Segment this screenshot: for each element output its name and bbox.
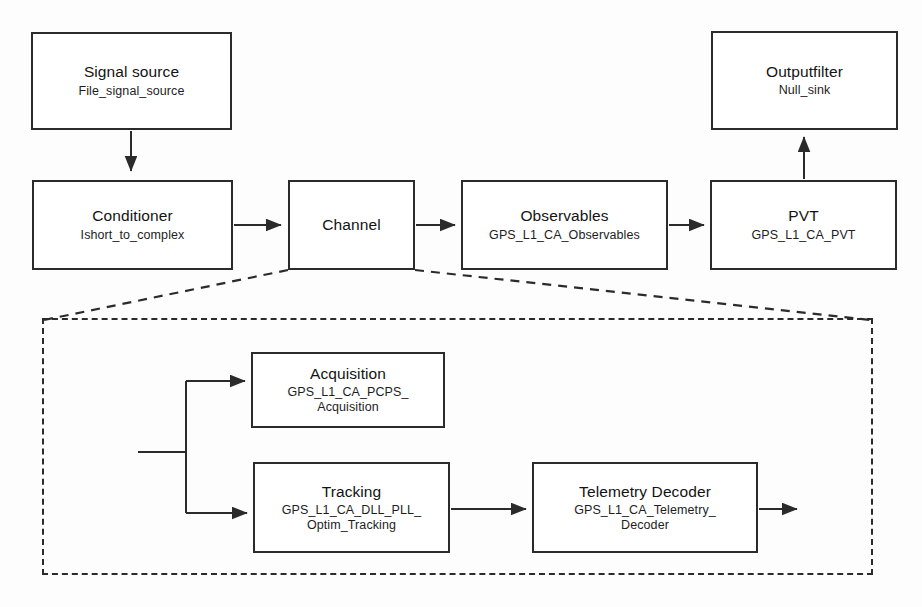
- block-acquisition-title: Acquisition: [310, 365, 386, 383]
- block-acquisition-subtitle-line1: GPS_L1_CA_PCPS_: [287, 385, 408, 399]
- block-tracking-subtitle-line2: Optim_Tracking: [282, 518, 421, 533]
- block-signal-source-subtitle: File_signal_source: [78, 84, 184, 99]
- block-signal-source[interactable]: Signal source File_signal_source: [31, 32, 232, 130]
- block-telemetry-decoder-subtitle: GPS_L1_CA_Telemetry_ Decoder: [574, 503, 716, 533]
- block-output-filter[interactable]: Outputfilter Null_sink: [711, 31, 898, 130]
- block-output-filter-subtitle: Null_sink: [779, 83, 831, 98]
- block-telemetry-decoder[interactable]: Telemetry Decoder GPS_L1_CA_Telemetry_ D…: [532, 462, 758, 553]
- block-conditioner-subtitle: Ishort_to_complex: [81, 228, 185, 243]
- expansion-guide-left: [44, 270, 288, 320]
- block-channel[interactable]: Channel: [288, 180, 415, 270]
- block-telemetry-decoder-subtitle-line1: GPS_L1_CA_Telemetry_: [574, 503, 716, 517]
- block-conditioner-title: Conditioner: [92, 207, 172, 225]
- block-channel-title: Channel: [322, 216, 380, 234]
- block-tracking-subtitle: GPS_L1_CA_DLL_PLL_ Optim_Tracking: [282, 503, 421, 533]
- expansion-guide-right: [415, 270, 871, 320]
- block-tracking[interactable]: Tracking GPS_L1_CA_DLL_PLL_ Optim_Tracki…: [253, 462, 450, 553]
- block-signal-source-title: Signal source: [84, 63, 179, 81]
- block-telemetry-decoder-title: Telemetry Decoder: [579, 483, 711, 501]
- block-telemetry-decoder-subtitle-line2: Decoder: [574, 518, 716, 533]
- block-acquisition[interactable]: Acquisition GPS_L1_CA_PCPS_ Acquisition: [251, 352, 445, 428]
- block-acquisition-subtitle-line2: Acquisition: [287, 400, 408, 415]
- block-conditioner[interactable]: Conditioner Ishort_to_complex: [32, 180, 233, 270]
- block-tracking-title: Tracking: [322, 483, 382, 501]
- block-acquisition-subtitle: GPS_L1_CA_PCPS_ Acquisition: [287, 385, 408, 415]
- block-pvt-title: PVT: [788, 207, 818, 225]
- block-observables-title: Observables: [520, 207, 608, 225]
- block-tracking-subtitle-line1: GPS_L1_CA_DLL_PLL_: [282, 503, 421, 517]
- block-observables-subtitle: GPS_L1_CA_Observables: [489, 228, 640, 243]
- block-output-filter-title: Outputfilter: [766, 63, 843, 81]
- block-pvt-subtitle: GPS_L1_CA_PVT: [751, 228, 855, 243]
- flow-diagram: Signal source File_signal_source Outputf…: [0, 0, 922, 607]
- block-pvt[interactable]: PVT GPS_L1_CA_PVT: [710, 180, 897, 270]
- block-observables[interactable]: Observables GPS_L1_CA_Observables: [461, 180, 668, 270]
